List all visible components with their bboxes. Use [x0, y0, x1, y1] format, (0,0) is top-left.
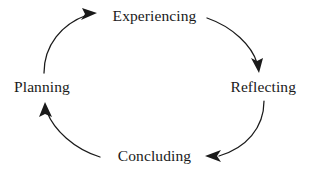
arrowhead-down-icon — [251, 58, 263, 73]
arrowhead-up-icon — [39, 102, 52, 117]
arrow-planning-to-experiencing-path — [44, 15, 87, 73]
arrow-experiencing-to-reflecting-path — [207, 18, 257, 63]
node-label-concluding: Concluding — [0, 148, 309, 164]
node-label-reflecting: Reflecting — [230, 79, 296, 95]
node-label-experiencing: Experiencing — [0, 8, 309, 24]
node-label-planning: Planning — [14, 79, 70, 95]
cycle-diagram: Experiencing Reflecting Concluding Plann… — [0, 0, 309, 177]
